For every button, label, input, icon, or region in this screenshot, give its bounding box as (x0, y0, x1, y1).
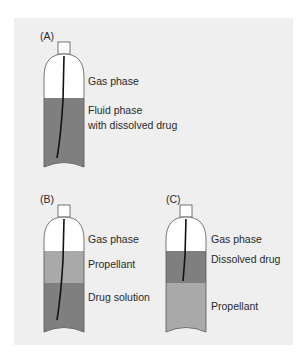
propellant-layer-c (162, 283, 212, 343)
gas-layer-c (162, 212, 212, 251)
canister-drawings (0, 0, 304, 359)
valve-cap-a (58, 42, 70, 54)
label-b-gas-phase: Gas phase (88, 233, 139, 246)
panel-tag-b: (B) (40, 193, 54, 205)
panel-tag-a: (A) (40, 30, 54, 42)
canister-b (40, 205, 90, 343)
propellant-layer-b (40, 251, 90, 283)
valve-cap-c (180, 205, 192, 217)
label-c-gas-phase: Gas phase (211, 233, 262, 246)
label-a-fluid-phase: Fluid phase (88, 104, 142, 117)
dissolved-drug-layer-c (162, 251, 212, 283)
gas-layer-b (40, 212, 90, 251)
label-b-propellant: Propellant (88, 258, 135, 271)
gas-layer-a (40, 50, 90, 98)
label-c-dissolved-drug: Dissolved drug (211, 253, 280, 266)
canister-a (40, 42, 90, 178)
label-a-fluid-phase-line2: with dissolved drug (88, 119, 177, 132)
label-a-gas-phase: Gas phase (88, 75, 139, 88)
label-b-drug-solution: Drug solution (88, 291, 150, 304)
valve-cap-b (58, 205, 70, 217)
label-c-propellant: Propellant (211, 300, 258, 313)
canister-c (162, 205, 212, 343)
drug-solution-layer-b (40, 283, 90, 343)
panel-tag-c: (C) (166, 193, 181, 205)
